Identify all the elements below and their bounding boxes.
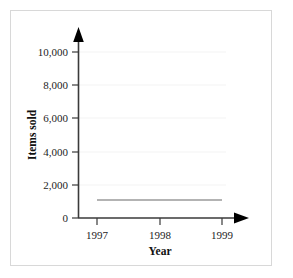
y-tick-label-4000: 4,000: [43, 146, 68, 158]
x-axis: [79, 212, 250, 223]
x-tick-label-1998: 1998: [149, 229, 172, 241]
y-tick-labels: 10,000 8,000 6,000 4,000 2,000 0: [38, 46, 69, 224]
up-arrow-icon: [73, 27, 84, 42]
y-tick-label-6000: 6,000: [43, 112, 68, 124]
x-tick-label-1997: 1997: [86, 229, 109, 241]
right-arrow-icon: [234, 212, 249, 223]
x-tick-label-1999: 1999: [211, 229, 234, 241]
gridlines: [79, 52, 226, 185]
y-tick-label-10000: 10,000: [38, 46, 69, 58]
x-axis-title: Year: [149, 245, 172, 257]
line-chart: 10,000 8,000 6,000 4,000 2,000 0 1997 19…: [0, 0, 293, 278]
y-axis: [73, 27, 84, 218]
y-tick-label-8000: 8,000: [43, 79, 68, 91]
chart-page: 10,000 8,000 6,000 4,000 2,000 0 1997 19…: [0, 0, 293, 278]
x-tick-marks: [97, 218, 222, 225]
y-axis-title: Items sold: [26, 109, 38, 160]
y-tick-label-2000: 2,000: [43, 179, 68, 191]
y-tick-label-0: 0: [63, 212, 69, 224]
x-tick-labels: 1997 1998 1999: [86, 229, 234, 241]
